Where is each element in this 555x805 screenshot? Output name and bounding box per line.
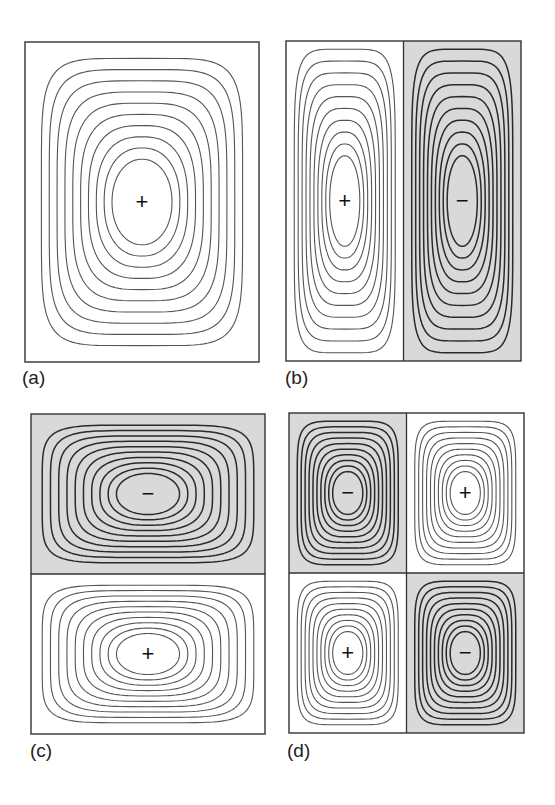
mode-cell-1: − [404,41,522,361]
panel-b: +− [285,40,522,362]
contour-plot-c: −+ [30,413,266,735]
minus-sign-icon: − [142,481,155,506]
contour-plot-b: +− [285,40,522,362]
plus-sign-icon: + [459,480,472,505]
mode-cell-0: − [31,414,265,574]
contour-plot-a: + [24,41,260,363]
mode-cell-0: − [289,413,407,573]
minus-sign-icon: − [341,480,354,505]
mode-cell-0: + [41,58,242,345]
panel-c: −+ [30,413,266,735]
plus-sign-icon: + [338,188,351,213]
minus-sign-icon: − [456,188,469,213]
plus-sign-icon: + [142,641,155,666]
panel-a-label: (a) [22,367,45,389]
mode-cell-3: − [407,573,525,733]
mode-cell-1: + [415,421,516,565]
minus-sign-icon: − [459,640,472,665]
panel-d-label: (d) [287,740,310,762]
panel-c-label: (c) [30,740,52,762]
panel-d: −++− [288,412,525,734]
mode-cell-1: + [42,585,254,723]
contour-plot-d: −++− [288,412,525,734]
mode-cell-2: + [297,581,398,725]
panel-a: + [24,41,260,363]
plus-sign-icon: + [136,189,149,214]
panel-b-label: (b) [285,367,308,389]
mode-cell-0: + [294,49,395,353]
plus-sign-icon: + [341,640,354,665]
